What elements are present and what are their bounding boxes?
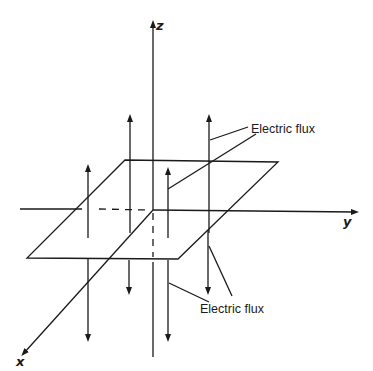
y-axis-label: y [343, 214, 352, 229]
flux-leader-lines-upper [168, 127, 256, 189]
z-axis-label: z [155, 18, 164, 33]
electric-flux-label-upper: Electric flux [251, 122, 316, 136]
x-axis-label: x [15, 354, 25, 369]
flux-down-arrows [88, 230, 208, 338]
x-axis [24, 2, 256, 353]
electric-flux-diagram: y z x Electric flux Electric flux [0, 0, 373, 371]
y-axis [20, 209, 355, 212]
flux-leader-lines-lower [169, 246, 232, 302]
electric-flux-label-lower: Electric flux [200, 302, 265, 316]
